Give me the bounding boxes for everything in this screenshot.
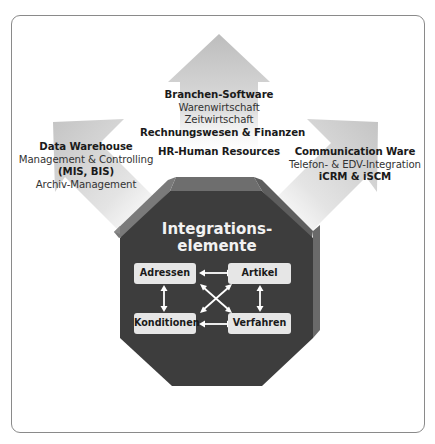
icrm-iscm-label: iCRM & iSCM [285, 171, 425, 184]
box-adressen: Adressen [134, 263, 196, 284]
rechnungswesen-label: Rechnungswesen & Finanzen [140, 127, 298, 140]
data-warehouse-block: Data Warehouse Management & Controlling … [18, 141, 154, 191]
box-artikel: Artikel [228, 263, 291, 284]
telefon-edv-label: Telefon- & EDV-Integration [285, 159, 425, 172]
mis-bis-label: (MIS, BIS) [18, 166, 154, 179]
management-controlling-label: Management & Controlling [18, 154, 154, 167]
zeitwirtschaft-label: Zeitwirtschaft [140, 114, 298, 127]
branchen-software-block: Branchen-Software Warenwirtschaft Zeitwi… [140, 89, 298, 139]
data-warehouse-title: Data Warehouse [18, 141, 154, 154]
integrationselemente-title: Integrations- elemente [150, 221, 284, 255]
warenwirtschaft-label: Warenwirtschaft [140, 102, 298, 115]
branchen-software-title: Branchen-Software [140, 89, 298, 102]
title-line-2: elemente [150, 238, 284, 255]
communication-ware-block: Communication Ware Telefon- & EDV-Integr… [285, 146, 425, 184]
box-konditionen: Konditionen [134, 313, 196, 334]
hr-label: HR-Human Resources [140, 146, 298, 159]
communication-ware-title: Communication Ware [285, 146, 425, 159]
box-verfahren: Verfahren [228, 313, 291, 334]
archiv-management-label: Archiv-Management [18, 179, 154, 192]
title-line-1: Integrations- [150, 221, 284, 238]
